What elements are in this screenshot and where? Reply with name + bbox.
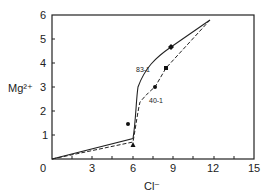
y-tick-6: 6 [40,9,46,21]
marker-circle-40-1 [153,85,157,89]
x-tick-3: 3 [89,162,95,174]
y-tick-4: 4 [40,57,46,69]
chart: 6 5 4 3 2 1 0 3 6 9 12 15 Mg²⁺ Cl⁻ 83-1 … [0,0,265,196]
y-tick-1: 1 [42,129,48,141]
curve-label-40-1: 40-1 [149,97,163,104]
y-tick-3: 3 [40,81,46,93]
x-tick-9: 9 [170,162,176,174]
x-tick-15: 15 [248,162,260,174]
y-tick-2: 2 [40,105,46,117]
x-axis-title: Cl⁻ [144,180,160,192]
curve-40-1 [52,20,210,159]
curve-83-1 [52,20,210,159]
x-tick-12: 12 [207,162,219,174]
marker-circle [126,122,130,126]
curve-label-83-1: 83-1 [136,66,150,73]
y-tick-5: 5 [40,33,46,45]
y-axis-title: Mg²⁺ [8,82,33,94]
x-tick-0: 0 [40,162,46,174]
marker-square [164,66,168,70]
x-tick-6: 6 [130,162,136,174]
